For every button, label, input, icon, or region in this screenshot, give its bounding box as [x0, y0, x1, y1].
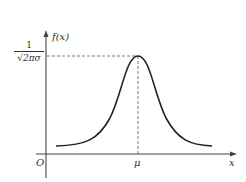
bell-curve [56, 56, 212, 146]
x-axis-arrow-icon [230, 152, 237, 157]
normal-curve-plot [0, 0, 246, 182]
y-axis-label: f(x) [52, 32, 69, 42]
fraction-numerator: 1 [14, 40, 44, 52]
mean-label: μ [134, 158, 141, 168]
y-axis-arrow-icon [44, 30, 49, 37]
origin-label: O [36, 158, 44, 168]
x-axis-label: x [229, 158, 235, 168]
peak-value-fraction: 1 √2πσ [14, 40, 44, 63]
fraction-denominator: √2πσ [14, 52, 44, 63]
